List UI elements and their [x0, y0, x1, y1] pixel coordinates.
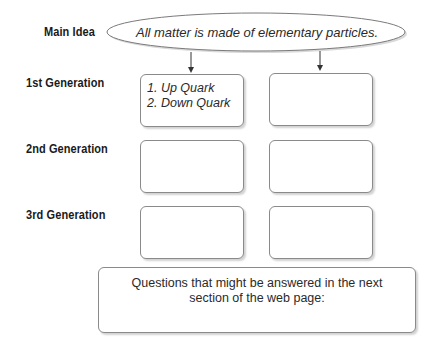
- arrow-right-head: [317, 65, 323, 71]
- gen1-right-box[interactable]: [269, 73, 373, 126]
- questions-text: Questions that might be answered in the …: [99, 276, 415, 306]
- questions-line-2: section of the web page:: [99, 291, 415, 306]
- questions-box[interactable]: Questions that might be answered in the …: [98, 267, 416, 333]
- list-item: 1. Up Quark: [147, 81, 230, 96]
- gen3-left-box[interactable]: [140, 206, 244, 259]
- list-item: 2. Down Quark: [147, 96, 230, 111]
- gen1-left-list: 1. Up Quark 2. Down Quark: [147, 81, 230, 111]
- main-idea-ellipse-container: All matter is made of elementary particl…: [107, 12, 407, 54]
- questions-line-1: Questions that might be answered in the …: [99, 276, 415, 291]
- gen2-left-box[interactable]: [140, 140, 244, 193]
- gen1-left-box[interactable]: 1. Up Quark 2. Down Quark: [140, 74, 244, 127]
- arrow-left-head: [188, 67, 194, 73]
- gen2-right-box[interactable]: [269, 140, 373, 193]
- main-idea-text: All matter is made of elementary particl…: [107, 12, 407, 52]
- gen3-right-box[interactable]: [269, 206, 373, 259]
